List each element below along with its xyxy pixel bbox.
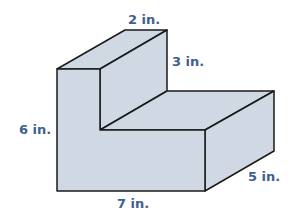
l-prism-drawing (0, 0, 301, 219)
label-length: 7 in. (117, 197, 149, 210)
label-depth: 5 in. (248, 170, 280, 183)
label-top-width: 2 in. (128, 13, 160, 26)
label-step-height: 3 in. (172, 55, 204, 68)
figure-canvas: 2 in. 3 in. 6 in. 7 in. 5 in. (0, 0, 301, 219)
label-total-height: 6 in. (19, 123, 51, 136)
